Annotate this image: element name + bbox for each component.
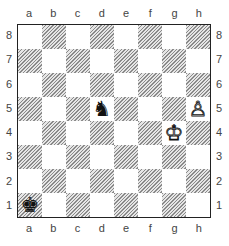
square-d7 (90, 49, 114, 73)
rank-label-1: 1 (213, 199, 225, 211)
square-c4 (66, 121, 90, 145)
square-a7 (18, 49, 42, 73)
file-label-c: c (66, 222, 90, 234)
square-a2 (18, 169, 42, 193)
square-e4 (114, 121, 138, 145)
square-h8 (186, 25, 210, 49)
square-g1 (162, 193, 186, 217)
square-h4 (186, 121, 210, 145)
square-d3 (90, 145, 114, 169)
chess-board: ♞♙♔♚ (17, 24, 211, 218)
square-g4: ♔ (162, 121, 186, 145)
rank-label-8: 8 (3, 29, 15, 41)
square-c5 (66, 97, 90, 121)
white-pawn-icon: ♙ (189, 99, 208, 120)
rank-label-2: 2 (3, 175, 15, 187)
file-label-b: b (41, 7, 65, 19)
square-e3 (114, 145, 138, 169)
square-a8 (18, 25, 42, 49)
square-e2 (114, 169, 138, 193)
square-h7 (186, 49, 210, 73)
square-f7 (138, 49, 162, 73)
square-g6 (162, 73, 186, 97)
square-c7 (66, 49, 90, 73)
rank-label-3: 3 (3, 150, 15, 162)
square-a3 (18, 145, 42, 169)
file-label-a: a (17, 222, 41, 234)
file-label-e: e (114, 7, 138, 19)
rank-label-6: 6 (213, 78, 225, 90)
rank-label-4: 4 (213, 126, 225, 138)
rank-label-8: 8 (213, 29, 225, 41)
square-c2 (66, 169, 90, 193)
rank-label-5: 5 (3, 102, 15, 114)
file-label-d: d (90, 222, 114, 234)
rank-label-1: 1 (3, 199, 15, 211)
rank-label-7: 7 (213, 53, 225, 65)
square-e5 (114, 97, 138, 121)
file-label-b: b (41, 222, 65, 234)
black-knight-icon: ♞ (93, 99, 112, 120)
square-f3 (138, 145, 162, 169)
square-d2 (90, 169, 114, 193)
square-g8 (162, 25, 186, 49)
square-e6 (114, 73, 138, 97)
black-king-icon: ♚ (21, 195, 40, 216)
file-label-f: f (138, 7, 162, 19)
square-h3 (186, 145, 210, 169)
square-f4 (138, 121, 162, 145)
square-f8 (138, 25, 162, 49)
file-label-f: f (138, 222, 162, 234)
square-d6 (90, 73, 114, 97)
file-label-h: h (187, 7, 211, 19)
file-label-d: d (90, 7, 114, 19)
rank-label-4: 4 (3, 126, 15, 138)
rank-label-2: 2 (213, 175, 225, 187)
file-label-h: h (187, 222, 211, 234)
square-b1 (42, 193, 66, 217)
square-g7 (162, 49, 186, 73)
square-h5: ♙ (186, 97, 210, 121)
square-b3 (42, 145, 66, 169)
square-h1 (186, 193, 210, 217)
square-b5 (42, 97, 66, 121)
square-f2 (138, 169, 162, 193)
white-king-icon: ♔ (165, 123, 184, 144)
square-a5 (18, 97, 42, 121)
rank-label-7: 7 (3, 53, 15, 65)
square-c1 (66, 193, 90, 217)
rank-label-5: 5 (213, 102, 225, 114)
square-g2 (162, 169, 186, 193)
square-b8 (42, 25, 66, 49)
file-label-g: g (163, 222, 187, 234)
square-d4 (90, 121, 114, 145)
square-g5 (162, 97, 186, 121)
square-d5: ♞ (90, 97, 114, 121)
square-c8 (66, 25, 90, 49)
square-d8 (90, 25, 114, 49)
square-e7 (114, 49, 138, 73)
file-label-c: c (66, 7, 90, 19)
square-b7 (42, 49, 66, 73)
square-f6 (138, 73, 162, 97)
square-a4 (18, 121, 42, 145)
square-c3 (66, 145, 90, 169)
square-g3 (162, 145, 186, 169)
square-b2 (42, 169, 66, 193)
square-a6 (18, 73, 42, 97)
square-f5 (138, 97, 162, 121)
square-b6 (42, 73, 66, 97)
file-label-e: e (114, 222, 138, 234)
square-e8 (114, 25, 138, 49)
square-f1 (138, 193, 162, 217)
square-e1 (114, 193, 138, 217)
file-label-g: g (163, 7, 187, 19)
square-b4 (42, 121, 66, 145)
file-label-a: a (17, 7, 41, 19)
rank-label-3: 3 (213, 150, 225, 162)
square-h2 (186, 169, 210, 193)
square-c6 (66, 73, 90, 97)
square-a1: ♚ (18, 193, 42, 217)
rank-label-6: 6 (3, 78, 15, 90)
square-d1 (90, 193, 114, 217)
